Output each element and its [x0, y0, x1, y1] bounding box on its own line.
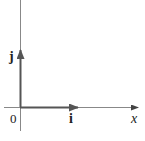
vector-i-label: i: [69, 112, 73, 126]
origin-label: 0: [10, 112, 17, 125]
x-axis-label: x: [131, 112, 137, 126]
vector-j-label: j: [9, 50, 14, 64]
